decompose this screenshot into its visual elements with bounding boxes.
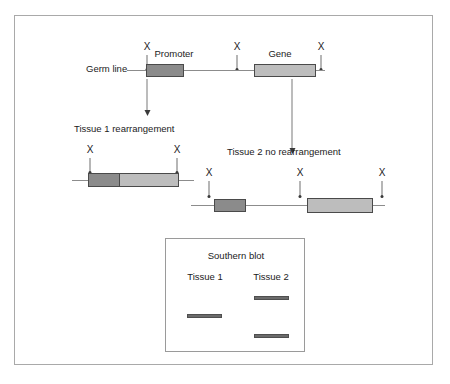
- restriction-tick-tissue1-1: [90, 158, 91, 172]
- germline-label: Germ line: [86, 64, 127, 74]
- promoter-label: Promoter: [154, 49, 193, 59]
- germline-gene-box: [254, 64, 316, 77]
- restriction-tick-tissue2-1: [209, 181, 210, 196]
- figure-canvas: X X X Promoter Gene Germ line Tissue 1 r…: [0, 0, 450, 384]
- restriction-site-x-tissue2-2: X: [297, 168, 304, 178]
- restriction-tick-tissue2-2: [300, 181, 301, 196]
- tissue1-gene-box: [119, 173, 179, 187]
- restriction-tick-germline-2: [237, 55, 238, 69]
- tissue1-label: Tissue 1 rearrangement: [74, 124, 175, 134]
- restriction-tick-tissue1-2: [177, 158, 178, 172]
- germline-promoter-box: [146, 64, 184, 77]
- restriction-site-x-tissue1-2: X: [174, 145, 181, 155]
- restriction-site-x-tissue1-1: X: [87, 145, 94, 155]
- restriction-site-x-tissue2-1: X: [206, 168, 213, 178]
- blot-band-tissue2-lower: [254, 334, 289, 338]
- southern-blot-panel: Southern blot Tissue 1 Tissue 2: [165, 238, 305, 352]
- southern-blot-title: Southern blot: [208, 251, 265, 261]
- blot-lane2-label: Tissue 2: [253, 272, 289, 282]
- tissue2-promoter-box: [214, 199, 246, 212]
- flow-arrow-to-tissue2: [292, 79, 293, 149]
- restriction-site-x-germline-3: X: [318, 42, 325, 52]
- restriction-tick-tissue2-3: [382, 181, 383, 196]
- restriction-tick-germline-3: [321, 55, 322, 69]
- restriction-site-x-germline-1: X: [144, 42, 151, 52]
- gene-label: Gene: [268, 49, 291, 59]
- flow-arrow-to-tissue1: [147, 79, 148, 111]
- blot-band-tissue2-upper: [254, 296, 289, 300]
- tissue2-gene-box: [307, 198, 373, 213]
- blot-band-tissue1-middle: [187, 314, 222, 318]
- tissue1-promoter-box: [88, 173, 120, 187]
- restriction-site-x-germline-2: X: [234, 42, 241, 52]
- blot-lane1-label: Tissue 1: [187, 272, 223, 282]
- tissue2-label: Tissue 2 no rearrangement: [227, 147, 341, 157]
- restriction-site-x-tissue2-3: X: [379, 168, 386, 178]
